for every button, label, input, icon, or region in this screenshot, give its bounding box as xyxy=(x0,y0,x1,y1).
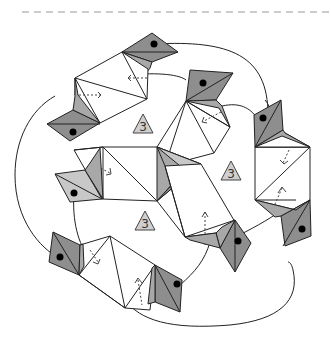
strip-lower-left xyxy=(79,236,155,310)
badge-3-right: 3 xyxy=(221,161,241,181)
origami-diagram: 3 3 3 xyxy=(0,0,331,343)
svg-text:3: 3 xyxy=(227,167,235,181)
right-hexagon xyxy=(255,133,310,211)
badge-3-lower: 3 xyxy=(135,211,155,231)
svg-text:3: 3 xyxy=(139,120,147,134)
badge-3-upper: 3 xyxy=(133,114,153,134)
module-bottom-center xyxy=(148,265,182,312)
svg-text:3: 3 xyxy=(141,217,149,231)
module-right-lower xyxy=(255,200,311,246)
